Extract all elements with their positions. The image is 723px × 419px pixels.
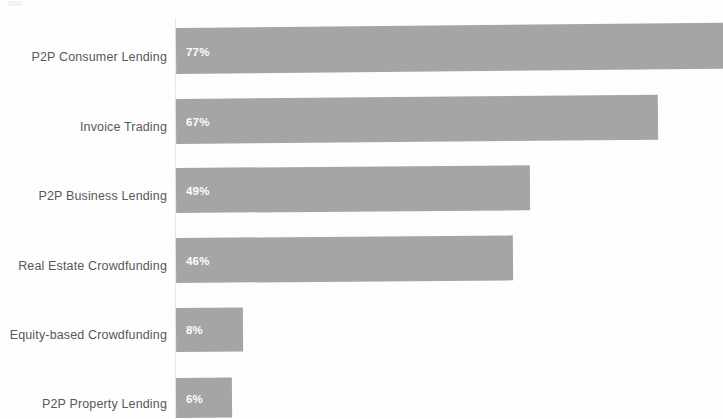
bar-segment [176,95,658,144]
category-label: P2P Business Lending [0,189,167,203]
plot-area: P2P Consumer Lending 77% Invoice Trading… [0,0,723,419]
bar-segment [176,23,723,74]
category-label: Real Estate Crowdfunding [0,259,167,273]
category-label: Invoice Trading [0,120,167,134]
bar-value-label: 46% [186,255,210,267]
bar-value-label: 6% [186,393,203,405]
bar-segment [176,235,513,283]
bar-chart: P2P Consumer Lending 77% Invoice Trading… [0,0,723,419]
bar-value-label: 49% [186,185,210,197]
category-label: P2P Property Lending [0,397,167,411]
bar-value-label: 77% [186,46,210,58]
category-label: P2P Consumer Lending [0,50,167,64]
category-label: Equity-based Crowdfunding [0,328,167,342]
bar-segment [176,378,232,418]
bar-segment [176,165,530,213]
bar-value-label: 8% [186,324,203,336]
bar-value-label: 67% [186,116,210,128]
